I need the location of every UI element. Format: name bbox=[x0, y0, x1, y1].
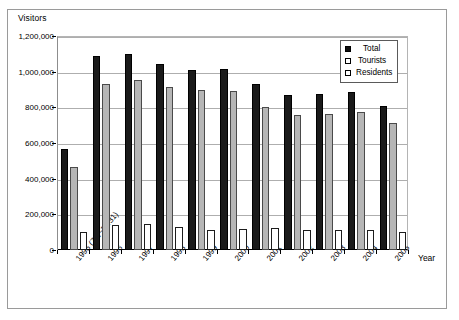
bar-tourists bbox=[325, 114, 333, 250]
y-axis-title: Visitors bbox=[18, 13, 47, 23]
bar-total bbox=[220, 69, 228, 250]
bar-residents bbox=[80, 232, 88, 250]
bar-total bbox=[93, 56, 101, 250]
bar-total bbox=[348, 92, 356, 250]
y-axis-tick-label: 800,000 bbox=[25, 103, 54, 112]
y-axis-tick-mark bbox=[52, 179, 56, 180]
x-axis-tick-mark bbox=[153, 250, 154, 254]
x-axis-tick-mark bbox=[217, 250, 218, 254]
bar-residents bbox=[335, 230, 343, 251]
bar-residents bbox=[207, 230, 215, 251]
x-axis-tick-mark bbox=[376, 250, 377, 254]
bar-group bbox=[316, 37, 343, 250]
bar-group bbox=[252, 37, 279, 250]
x-axis-tick-mark bbox=[312, 250, 313, 254]
bar-tourists bbox=[102, 84, 110, 250]
x-axis-tick-mark bbox=[89, 250, 90, 254]
bar-total bbox=[156, 64, 164, 250]
bar-tourists bbox=[198, 90, 206, 250]
legend-item-tourists: Tourists bbox=[345, 55, 392, 67]
bar-residents bbox=[239, 229, 247, 250]
bar-residents bbox=[399, 232, 407, 250]
bar-tourists bbox=[294, 115, 302, 250]
x-axis-tick-mark bbox=[408, 250, 409, 254]
legend-label-total: Total bbox=[356, 45, 380, 53]
bar-tourists bbox=[70, 167, 78, 250]
bar-group bbox=[125, 37, 152, 250]
y-axis-tick-label: 400,000 bbox=[25, 174, 54, 183]
bar-group bbox=[220, 37, 247, 250]
bar-tourists bbox=[389, 123, 397, 250]
y-axis-tick-labels: 1,200,0001,000,000800,000600,000400,0002… bbox=[10, 36, 54, 250]
y-axis-tick-mark bbox=[52, 214, 56, 215]
bar-tourists bbox=[230, 91, 238, 250]
bar-tourists bbox=[166, 87, 174, 250]
x-axis-tick-mark bbox=[248, 250, 249, 254]
x-axis-tick-mark bbox=[185, 250, 186, 254]
bar-group bbox=[61, 37, 88, 250]
x-axis-tick-mark bbox=[121, 250, 122, 254]
bar-tourists bbox=[134, 80, 142, 250]
bar-residents bbox=[271, 228, 279, 250]
x-axis-tick-mark bbox=[280, 250, 281, 254]
legend-swatch-residents-icon bbox=[345, 70, 351, 76]
legend-swatch-tourists-icon bbox=[345, 58, 351, 64]
bar-tourists bbox=[262, 107, 270, 250]
bar-total bbox=[252, 84, 260, 250]
y-axis-tick-mark bbox=[52, 72, 56, 73]
y-axis-tick-label: 1,000,000 bbox=[18, 67, 54, 76]
y-axis-tick-mark bbox=[52, 107, 56, 108]
x-axis-tick-mark bbox=[57, 250, 58, 254]
legend-label-tourists: Tourists bbox=[356, 57, 386, 65]
y-axis-tick-label: 200,000 bbox=[25, 210, 54, 219]
bar-total bbox=[284, 95, 292, 250]
chart-legend: Total Tourists Residents bbox=[340, 40, 398, 83]
bar-total bbox=[316, 94, 324, 250]
legend-swatch-total-icon bbox=[345, 46, 351, 52]
bar-total bbox=[188, 70, 196, 250]
bar-residents bbox=[175, 227, 183, 250]
y-axis-tick-mark bbox=[52, 143, 56, 144]
bar-residents bbox=[144, 224, 152, 250]
legend-item-total: Total bbox=[345, 43, 392, 55]
bar-group bbox=[188, 37, 215, 250]
chart-figure: Visitors Year 1,200,0001,000,000800,0006… bbox=[0, 0, 459, 320]
bar-tourists bbox=[357, 112, 365, 250]
bar-total bbox=[125, 54, 133, 250]
bar-residents bbox=[112, 225, 120, 250]
y-axis-tick-mark bbox=[52, 36, 56, 37]
x-axis-tick-mark bbox=[344, 250, 345, 254]
x-axis-title: Year bbox=[418, 253, 435, 263]
bar-total bbox=[61, 149, 69, 250]
bar-group bbox=[284, 37, 311, 250]
bar-group bbox=[156, 37, 183, 250]
bar-residents bbox=[303, 230, 311, 251]
bar-total bbox=[380, 106, 388, 250]
y-axis-tick-mark bbox=[52, 250, 56, 251]
bar-residents bbox=[367, 230, 375, 250]
y-axis-tick-label: 1,200,000 bbox=[18, 32, 54, 41]
legend-item-residents: Residents bbox=[345, 67, 392, 79]
y-axis-tick-label: 600,000 bbox=[25, 139, 54, 148]
legend-label-residents: Residents bbox=[356, 69, 392, 77]
